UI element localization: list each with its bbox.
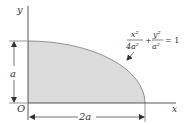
equation-leader-arrow <box>127 52 134 60</box>
eq-term2-denominator: a² <box>152 42 160 51</box>
y-axis-label: y <box>16 4 23 15</box>
eq-term1-numerator: x² <box>131 30 139 39</box>
eq-equals-one: = 1 <box>165 36 179 45</box>
eq-plus: + <box>145 36 152 45</box>
diagram-canvas: y x O a 2a x² 4a² + y² a² = 1 <box>0 0 188 125</box>
dim-a-label: a <box>10 68 16 79</box>
eq-term2-numerator: y² <box>152 30 161 39</box>
x-axis-label: x <box>172 104 177 114</box>
dim-2a-label: 2a <box>78 111 91 122</box>
ellipse-equation: x² 4a² + y² a² = 1 <box>125 30 179 51</box>
eq-term1-denominator: 4a² <box>125 42 139 51</box>
origin-label: O <box>17 103 25 114</box>
